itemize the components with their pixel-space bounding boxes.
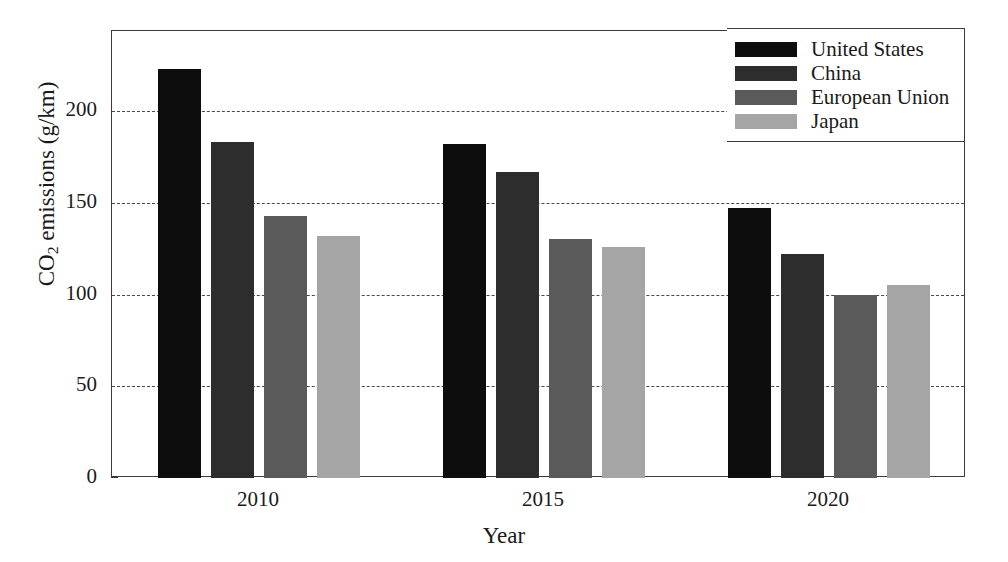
y-tick-label-200: 200 bbox=[66, 99, 98, 120]
y-axis-label: CO2 emissions (g/km) bbox=[34, 0, 62, 384]
x-tick-label-2010: 2010 bbox=[198, 487, 318, 512]
x-tick-label-2015: 2015 bbox=[483, 487, 603, 512]
legend-label: United States bbox=[811, 39, 924, 60]
bar-china-2010[interactable] bbox=[211, 142, 254, 478]
y-axis-label-suffix: emissions (g/km) bbox=[34, 82, 59, 247]
legend-label: Japan bbox=[811, 111, 859, 132]
chart-legend: United StatesChinaEuropean UnionJapan bbox=[727, 28, 965, 142]
y-axis-label-prefix: CO bbox=[34, 254, 59, 286]
bar-china-2015[interactable] bbox=[496, 172, 539, 478]
y-tick-label-150: 150 bbox=[66, 191, 98, 212]
y-tick-label-50: 50 bbox=[76, 374, 97, 395]
x-tick-label-2020: 2020 bbox=[768, 487, 888, 512]
legend-label: China bbox=[811, 63, 861, 84]
bar-group-2015 bbox=[443, 31, 645, 478]
legend-item-china[interactable]: China bbox=[735, 61, 954, 85]
bar-european-union-2010[interactable] bbox=[264, 216, 307, 478]
bar-china-2020[interactable] bbox=[781, 254, 824, 478]
chart-figure: CO2 emissions (g/km) 050100150200 201020… bbox=[0, 0, 1008, 562]
legend-swatch-icon bbox=[735, 90, 797, 105]
legend-swatch-icon bbox=[735, 114, 797, 129]
bar-united-states-2020[interactable] bbox=[728, 208, 771, 478]
bar-united-states-2010[interactable] bbox=[158, 69, 201, 478]
bar-european-union-2015[interactable] bbox=[549, 239, 592, 478]
x-axis-label: Year bbox=[0, 523, 1008, 549]
legend-swatch-icon bbox=[735, 42, 797, 57]
legend-swatch-icon bbox=[735, 66, 797, 81]
bar-japan-2015[interactable] bbox=[602, 247, 645, 478]
legend-item-japan[interactable]: Japan bbox=[735, 109, 954, 133]
y-axis-label-subscript: 2 bbox=[44, 247, 61, 255]
bar-japan-2010[interactable] bbox=[317, 236, 360, 478]
legend-label: European Union bbox=[811, 87, 949, 108]
y-tick-label-0: 0 bbox=[87, 466, 98, 487]
bar-united-states-2015[interactable] bbox=[443, 144, 486, 478]
y-tick-mark-0 bbox=[111, 477, 118, 478]
bar-european-union-2020[interactable] bbox=[834, 295, 877, 478]
bar-group-2010 bbox=[158, 31, 360, 478]
legend-item-european-union[interactable]: European Union bbox=[735, 85, 954, 109]
legend-item-united-states[interactable]: United States bbox=[735, 37, 954, 61]
bar-japan-2020[interactable] bbox=[887, 285, 930, 478]
y-tick-label-100: 100 bbox=[66, 283, 98, 304]
